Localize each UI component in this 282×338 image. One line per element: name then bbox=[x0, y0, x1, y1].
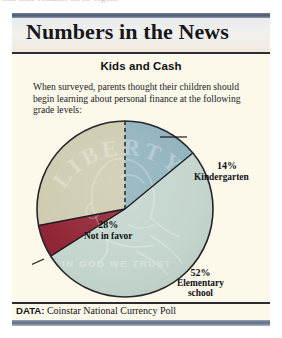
masthead: Numbers in the News bbox=[12, 18, 270, 52]
footer-bottom-rule bbox=[12, 320, 270, 326]
data-source-name: Coinstar National Currency Poll bbox=[47, 305, 176, 316]
leader-line-high-school bbox=[32, 259, 44, 267]
data-source-bar: DATA: Coinstar National Currency Poll bbox=[12, 304, 270, 320]
article-body: Kids and Cash When surveyed, parents tho… bbox=[12, 54, 270, 302]
pie-chart: LIBERTY IN GOD WE bbox=[32, 117, 250, 300]
data-source-prefix: DATA: bbox=[16, 305, 44, 316]
clipping-top-fragment-text: that time remains on its eighth bbox=[2, 0, 117, 3]
page-title: Numbers in the News bbox=[26, 19, 229, 45]
pie-label-not-in-favor: 28% Not in favor bbox=[84, 220, 132, 241]
pie-label-kindergarten-name: Kindergarten bbox=[194, 172, 266, 183]
pie-label-elementary: 52% Elementaryschool bbox=[177, 268, 224, 299]
news-clipping-card: Numbers in the News Kids and Cash When s… bbox=[12, 13, 270, 326]
pie-label-elementary-name: Elementaryschool bbox=[177, 278, 224, 298]
article-subhead: Kids and Cash bbox=[12, 60, 270, 72]
pie-label-not-in-favor-name: Not in favor bbox=[84, 231, 132, 242]
pie-label-elementary-value: 52% bbox=[177, 268, 224, 278]
pie-label-kindergarten-value: 14% bbox=[188, 161, 266, 172]
pie-label-not-in-favor-value: 28% bbox=[84, 220, 132, 231]
pie-label-kindergarten: 14% Kindergarten bbox=[194, 161, 266, 182]
data-source-text: DATA: Coinstar National Currency Poll bbox=[16, 305, 176, 316]
article-blurb: When surveyed, parents thought their chi… bbox=[33, 81, 251, 116]
clipping-top-fragment: that time remains on its eighth bbox=[0, 0, 282, 12]
